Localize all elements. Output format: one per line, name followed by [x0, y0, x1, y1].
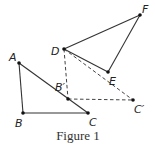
- label-b: B: [15, 117, 23, 130]
- point-c-prime: [131, 98, 135, 102]
- point-b-prime: [66, 97, 70, 101]
- label-d: D: [51, 45, 59, 58]
- segment-de: [64, 49, 108, 72]
- label-e: E: [109, 75, 116, 88]
- segment-df: [64, 15, 140, 49]
- label-f: F: [142, 3, 149, 16]
- segment-ab: [19, 63, 23, 113]
- label-a: A: [8, 51, 17, 64]
- label-c-prime: C′: [134, 103, 145, 116]
- segment-dc-prime: [64, 49, 133, 100]
- point-c: [86, 111, 90, 115]
- label-b-prime: B′: [55, 81, 66, 94]
- segment-ac: [19, 63, 88, 113]
- figure-caption: Figure 1: [56, 128, 100, 143]
- point-b: [21, 111, 25, 115]
- segment-ef: [108, 15, 140, 72]
- point-e: [106, 70, 110, 74]
- point-a: [17, 61, 21, 65]
- point-d: [62, 47, 66, 51]
- segment-b-prime-c-prime: [68, 99, 133, 100]
- figure-1-diagram: A B C B′ C′ D E F Figure 1: [0, 0, 155, 149]
